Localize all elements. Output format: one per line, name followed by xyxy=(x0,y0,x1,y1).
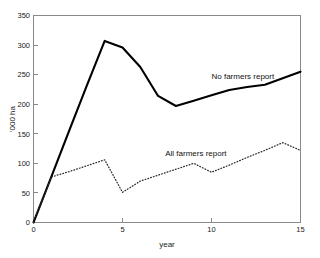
y-axis-title: '000 ha xyxy=(8,105,17,132)
y-axis-tick-labels: 0 50 100 150 200 250 300 350 xyxy=(17,11,30,227)
x-axis-title: year xyxy=(159,240,175,249)
y-tick-label: 150 xyxy=(17,130,30,139)
x-tick-label: 0 xyxy=(31,225,35,234)
y-tick-label: 250 xyxy=(17,70,30,79)
y-axis-ticks xyxy=(34,16,39,223)
x-tick-label: 5 xyxy=(120,225,124,234)
chart-figure: 0 50 100 150 200 250 300 350 0 5 10 15 y… xyxy=(0,0,320,258)
y-tick-label: 100 xyxy=(17,159,30,168)
x-tick-label: 10 xyxy=(207,225,215,234)
y-tick-label: 300 xyxy=(17,41,30,50)
y-tick-label: 200 xyxy=(17,100,30,109)
x-axis-ticks xyxy=(34,218,301,223)
series-no-farmers-report xyxy=(34,41,301,223)
annotation-no-farmers-report: No farmers report xyxy=(212,72,275,81)
y-tick-label: 0 xyxy=(26,218,30,227)
y-tick-label: 350 xyxy=(17,11,30,20)
line-chart: 0 50 100 150 200 250 300 350 0 5 10 15 y… xyxy=(0,0,320,258)
x-axis-tick-labels: 0 5 10 15 xyxy=(31,225,304,234)
x-tick-label: 15 xyxy=(296,225,304,234)
annotation-all-farmers-report: All farmers report xyxy=(165,149,227,158)
y-tick-label: 50 xyxy=(22,189,30,198)
